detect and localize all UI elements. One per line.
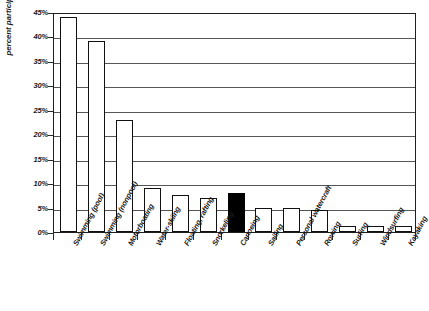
y-axis-tick-label: 5% xyxy=(14,205,48,213)
x-axis-tick-mark xyxy=(53,233,54,240)
bar xyxy=(395,226,412,232)
y-axis-tick-label: 0% xyxy=(14,229,48,237)
y-axis-tick-label: 35% xyxy=(14,58,48,66)
y-axis-tick-mark xyxy=(48,209,53,210)
y-axis-tick-label: 15% xyxy=(14,156,48,164)
y-axis-tick-labels: 0%5%10%15%20%25%30%35%40%45% xyxy=(14,0,48,311)
y-axis-tick-mark xyxy=(48,111,53,112)
bar-chart: percent participating 0%5%10%15%20%25%30… xyxy=(0,0,429,311)
y-axis-tick-label: 10% xyxy=(14,180,48,188)
y-axis-tick-mark xyxy=(48,160,53,161)
y-axis-tick-label: 45% xyxy=(14,9,48,17)
bar xyxy=(339,226,356,232)
y-axis-tick-mark xyxy=(48,13,53,14)
y-axis-tick-label: 30% xyxy=(14,82,48,90)
y-axis-tick-mark xyxy=(48,184,53,185)
y-axis-tick-mark xyxy=(48,37,53,38)
y-axis-tick-label: 25% xyxy=(14,107,48,115)
y-axis-tick-mark xyxy=(48,62,53,63)
bar xyxy=(367,226,384,232)
y-axis-tick-mark xyxy=(48,135,53,136)
x-axis-category-labels: Swimming (pool)Swimming (nonpool)Motorbo… xyxy=(53,243,416,311)
y-axis-tick-mark xyxy=(48,233,53,234)
y-axis-tick-mark xyxy=(48,86,53,87)
y-axis-tick-label: 40% xyxy=(14,33,48,41)
y-axis-tick-label: 20% xyxy=(14,131,48,139)
bar xyxy=(60,17,77,232)
